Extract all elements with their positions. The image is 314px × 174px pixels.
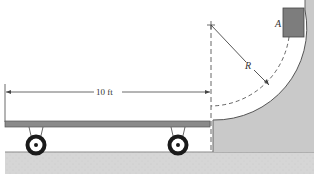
distance-label: 10 ft [96,87,113,97]
radius-label: R [244,60,251,71]
cart [5,121,210,154]
block-label: A [274,18,282,29]
right-wheel [170,127,187,154]
ground [5,152,314,174]
radius-dimension: R [211,25,269,85]
cart-platform [5,121,210,127]
diagram-canvas: R A 10 ft [0,0,314,174]
left-wheel [28,127,45,154]
block-a: A [274,8,304,37]
distance-dimension: 10 ft [5,84,210,122]
